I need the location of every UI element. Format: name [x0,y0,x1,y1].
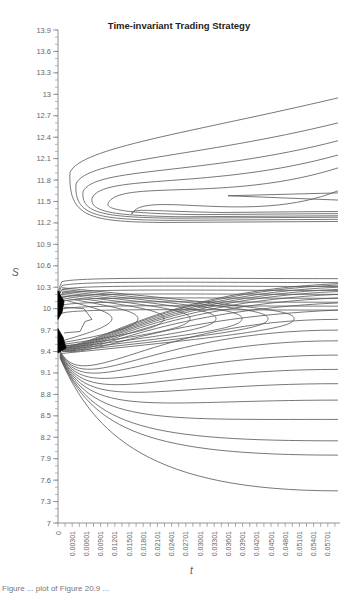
y-tick-label: 9.1 [41,368,51,377]
contour-lines [58,98,338,491]
x-tick-label: 0.04501 [268,531,275,556]
y-tick-label: 7.6 [41,476,51,485]
y-tick-label: 7.9 [41,454,51,463]
y-axis-label: S [12,267,19,278]
y-tick-label: 10 [43,304,51,313]
x-tick-label: 0.00301 [69,531,76,556]
x-axis-label: t [190,565,194,576]
figure-caption: Figure ... plot of Figure 20.9 ... [2,584,109,593]
x-tick-label: 0.00901 [97,531,104,556]
x-tick-label: 0.05401 [310,531,317,556]
x-tick-label: 0.03301 [211,531,218,556]
y-tick-label: 11.8 [37,176,51,185]
x-tick-label: 0.03901 [239,531,246,556]
x-tick-label: 0.02401 [168,531,175,556]
y-tick-label: 9.4 [41,347,51,356]
y-tick-label: 8.8 [41,390,51,399]
x-axis: 00.003010.006010.009010.012010.015010.01… [55,523,341,556]
y-tick-label: 12.4 [36,133,51,142]
x-tick-label: 0.05101 [296,531,303,556]
y-tick-label: 7 [47,519,51,528]
x-tick-label: 0.05701 [324,531,331,556]
x-tick-label: 0.01801 [140,531,147,556]
y-tick-label: 8.2 [41,433,51,442]
x-tick-label: 0.03001 [197,531,204,556]
y-tick-label: 10.6 [36,261,51,270]
x-tick-label: 0.02101 [154,531,161,556]
x-tick-label: 0.01501 [126,531,133,556]
y-tick-label: 13 [43,90,51,99]
x-tick-label: 0.04801 [282,531,289,556]
y-tick-label: 13.6 [36,47,51,56]
y-tick-label: 11.5 [37,197,51,206]
x-tick-label: 0.03601 [225,531,232,556]
y-tick-label: 9.7 [41,326,51,335]
x-tick-label: 0.01201 [111,531,118,556]
y-tick-label: 13.3 [36,68,51,77]
y-tick-label: 8.5 [41,411,51,420]
y-axis: 77.37.67.98.28.58.89.19.49.71010.310.610… [36,26,58,528]
y-tick-label: 10.9 [36,240,51,249]
x-tick-label: 0 [55,531,62,535]
y-tick-label: 10.3 [36,283,51,292]
y-tick-label: 7.3 [41,497,51,506]
y-tick-label: 12.7 [36,111,51,120]
y-tick-label: 13.9 [36,26,51,35]
x-tick-label: 0.00601 [83,531,90,556]
y-tick-label: 11.2 [37,218,51,227]
x-tick-label: 0.04201 [253,531,260,556]
x-tick-label: 0.02701 [182,531,189,556]
y-tick-label: 12.1 [36,154,51,163]
